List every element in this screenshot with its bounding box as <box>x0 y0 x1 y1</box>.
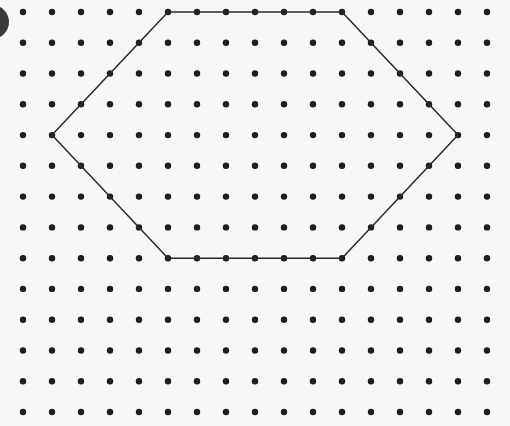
grid-dot <box>20 317 26 323</box>
grid-dot <box>397 347 403 353</box>
grid-dot <box>78 347 84 353</box>
grid-dot <box>426 132 432 138</box>
grid-dot <box>368 163 374 169</box>
grid-dot <box>310 286 316 292</box>
grid-dot <box>455 347 461 353</box>
grid-dot <box>78 70 84 76</box>
grid-dot <box>310 317 316 323</box>
grid-dot <box>281 40 287 46</box>
grid-dot <box>136 132 142 138</box>
grid-dot <box>194 224 200 230</box>
grid-dot <box>252 193 258 199</box>
grid-dot <box>165 101 171 107</box>
grid-dot <box>194 409 200 415</box>
grid-dot <box>368 9 374 15</box>
grid-dot <box>78 224 84 230</box>
grid-dot <box>368 132 374 138</box>
grid-dot <box>426 255 432 261</box>
grid-dot <box>20 132 26 138</box>
grid-dot <box>49 347 55 353</box>
grid-dot <box>107 409 113 415</box>
grid-dot <box>107 224 113 230</box>
grid-dot <box>281 193 287 199</box>
grid-dot <box>484 317 490 323</box>
grid-dot <box>368 378 374 384</box>
grid-dot <box>397 378 403 384</box>
grid-dot <box>484 40 490 46</box>
grid-dot <box>397 409 403 415</box>
grid-dot <box>397 317 403 323</box>
grid-dot <box>455 255 461 261</box>
grid-dot <box>223 224 229 230</box>
grid-dot <box>252 70 258 76</box>
grid-dot <box>223 193 229 199</box>
grid-dot <box>223 317 229 323</box>
grid-dot <box>484 255 490 261</box>
grid-dot <box>281 286 287 292</box>
grid-dot <box>107 101 113 107</box>
grid-dot <box>49 163 55 169</box>
grid-dot <box>281 224 287 230</box>
grid-dot <box>136 193 142 199</box>
grid-dot <box>107 286 113 292</box>
grid-dot <box>20 347 26 353</box>
grid-dot <box>426 347 432 353</box>
grid-dot <box>397 132 403 138</box>
grid-dot <box>252 378 258 384</box>
grid-dot <box>165 193 171 199</box>
grid-dot <box>136 255 142 261</box>
grid-dot <box>455 70 461 76</box>
grid-dot <box>194 163 200 169</box>
grid-dot <box>339 40 345 46</box>
grid-dot <box>136 347 142 353</box>
grid-dot <box>194 286 200 292</box>
grid-dot <box>426 193 432 199</box>
grid-dot <box>165 347 171 353</box>
grid-dot <box>78 378 84 384</box>
grid-dot <box>252 224 258 230</box>
grid-dot <box>484 132 490 138</box>
grid-dot <box>455 286 461 292</box>
grid-dot <box>368 193 374 199</box>
grid-dot <box>78 193 84 199</box>
grid-dot <box>78 132 84 138</box>
grid-dot <box>310 193 316 199</box>
grid-dot <box>455 101 461 107</box>
grid-dot <box>426 9 432 15</box>
grid-dot <box>194 378 200 384</box>
grid-dot <box>136 101 142 107</box>
grid-dot <box>223 286 229 292</box>
grid-dot <box>223 163 229 169</box>
grid-dot <box>194 193 200 199</box>
grid-dot <box>426 378 432 384</box>
grid-dot <box>455 409 461 415</box>
grid-dot <box>339 317 345 323</box>
grid-dot <box>20 70 26 76</box>
grid-dot <box>281 132 287 138</box>
grid-dot <box>252 317 258 323</box>
grid-dot <box>136 409 142 415</box>
grid-dot <box>107 317 113 323</box>
grid-dot <box>368 70 374 76</box>
grid-dot <box>49 255 55 261</box>
grid-dot <box>310 132 316 138</box>
grid-dot <box>310 224 316 230</box>
grid-dot <box>252 40 258 46</box>
grid-dot <box>368 347 374 353</box>
grid-dot <box>78 9 84 15</box>
grid-dot <box>78 40 84 46</box>
grid-dot <box>107 255 113 261</box>
grid-dot <box>484 347 490 353</box>
grid-dot <box>455 193 461 199</box>
grid-dot <box>165 409 171 415</box>
grid-dot <box>252 409 258 415</box>
grid-dot <box>281 378 287 384</box>
grid-dot <box>20 378 26 384</box>
grid-dot <box>165 317 171 323</box>
grid-dot <box>165 40 171 46</box>
grid-dot <box>20 224 26 230</box>
grid-dot <box>223 40 229 46</box>
grid-dot <box>281 317 287 323</box>
grid-dot <box>484 378 490 384</box>
grid-dot <box>339 70 345 76</box>
